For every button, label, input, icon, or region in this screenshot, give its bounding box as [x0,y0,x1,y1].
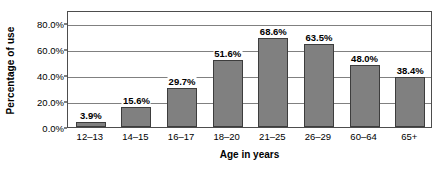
bars-group: 3.9%15.6%29.7%51.6%68.6%63.5%48.0%38.4% [68,12,431,127]
x-axis-tick-label: 16–17 [168,131,194,142]
bar[interactable] [213,60,243,127]
bar-value-label: 48.0% [350,53,379,64]
bar[interactable] [167,88,197,127]
x-axis-tick-label: 14–15 [122,131,148,142]
plot-area: 3.9%15.6%29.7%51.6%68.6%63.5%48.0%38.4% [67,11,432,128]
x-axis-tick-label: 65+ [401,131,417,142]
bar-slot: 3.9% [68,12,114,127]
y-axis-title-text: Percentage of use [6,26,17,114]
x-axis-tick-label: 12–13 [77,131,103,142]
bar-slot: 51.6% [205,12,251,127]
x-axis-tick-labels: 12–1314–1516–1718–2021–2526–2960–6465+ [67,130,432,146]
y-axis-tick-label: 0.0% [42,123,64,134]
bar[interactable] [304,44,334,127]
bar[interactable] [76,122,106,127]
bar-slot: 63.5% [296,12,342,127]
bar-slot: 68.6% [251,12,297,127]
bar-chart: Percentage of use 0.0%20.0%40.0%60.0%80.… [0,0,447,172]
bar[interactable] [258,38,288,127]
y-axis-title: Percentage of use [0,0,22,140]
bar-slot: 15.6% [114,12,160,127]
y-axis-tick-labels: 0.0%20.0%40.0%60.0%80.0% [22,11,67,128]
y-axis-tick-label: 40.0% [37,71,64,82]
bar-slot: 48.0% [342,12,388,127]
bar[interactable] [121,107,151,127]
bar-value-label: 68.6% [259,26,288,37]
y-axis-tick-label: 60.0% [37,45,64,56]
bar-slot: 29.7% [159,12,205,127]
x-axis-tick-label: 60–64 [350,131,376,142]
y-axis-tick-label: 80.0% [37,19,64,30]
x-axis-tick-label: 26–29 [305,131,331,142]
x-axis-tick-label: 21–25 [259,131,285,142]
bar[interactable] [350,65,380,127]
bar-slot: 38.4% [387,12,433,127]
bar-value-label: 29.7% [168,76,197,87]
x-axis-tick-label: 18–20 [213,131,239,142]
bar-value-label: 63.5% [304,32,333,43]
bar-value-label: 15.6% [122,95,151,106]
bar-value-label: 51.6% [213,48,242,59]
bar-value-label: 38.4% [396,65,425,76]
x-axis-title: Age in years [67,149,432,160]
bar[interactable] [395,77,425,127]
bar-value-label: 3.9% [79,110,103,121]
y-axis-tick-label: 20.0% [37,97,64,108]
